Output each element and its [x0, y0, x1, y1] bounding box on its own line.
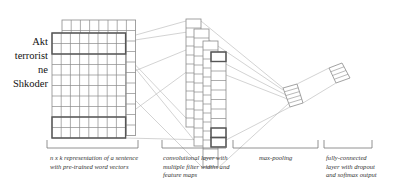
section-bracket — [233, 140, 318, 148]
connector-line — [297, 68, 329, 84]
section-bracket — [324, 140, 372, 148]
cnn-architecture-diagram: Akt terrorist ne Shkoder n x k represent… — [0, 0, 395, 196]
connector-line — [218, 60, 286, 95]
caption-fully-connected: fully-connected layer with dropout and s… — [326, 154, 378, 180]
connector-line — [303, 83, 336, 103]
caption-conv-layer: convolutional layer with multiple filter… — [163, 154, 233, 180]
connector-line — [226, 75, 290, 100]
word-label: Shkoder — [13, 77, 48, 90]
sentence-words: Akt terrorist ne Shkoder — [0, 35, 48, 95]
word-label: Akt — [32, 35, 48, 48]
caption-max-pooling: max-pooling — [259, 154, 319, 163]
connector-line — [226, 107, 290, 140]
section-bracket — [47, 140, 138, 148]
caption-sentence-matrix: n x k representation of a sentence with … — [50, 154, 142, 171]
word-label: terrorist — [15, 49, 48, 62]
connector-line — [135, 31, 194, 40]
word-label: ne — [38, 63, 48, 76]
